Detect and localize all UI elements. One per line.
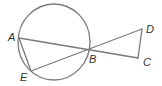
geometry-diagram: A E B C D [0,0,162,86]
label-b: B [89,53,96,65]
circle [18,4,90,80]
segment-e-d [31,29,142,71]
label-c: C [143,56,151,68]
segment-a-c [19,38,138,58]
segment-a-e [19,38,31,71]
label-a: A [7,31,15,43]
segment-d-c [138,29,142,58]
label-e: E [20,71,28,83]
label-d: D [146,23,154,35]
